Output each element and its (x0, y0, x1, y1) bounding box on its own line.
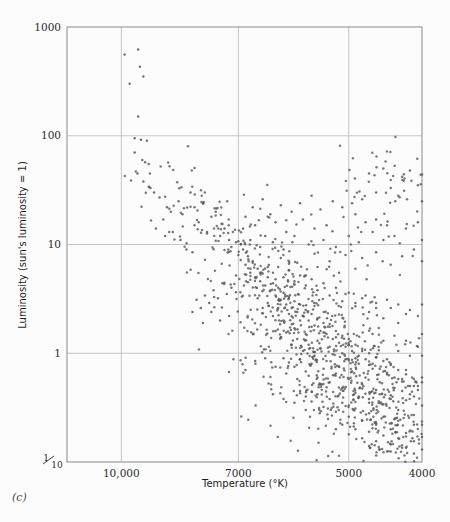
y-tick-label: 1000 (34, 21, 61, 33)
y-axis-title: Luminosity (sun's luminosity = 1) (17, 161, 28, 329)
x-tick-label: 10,000 (103, 467, 140, 479)
y-tick-label: 1 (54, 347, 61, 359)
scatter-plot: 10,000700050004000 1000100101110 Tempera… (0, 0, 450, 522)
svg-text:10: 10 (51, 460, 63, 470)
figure-caption: (c) (12, 491, 27, 504)
y-tick-label: 10 (48, 238, 61, 250)
y-tick-label: 100 (41, 129, 61, 141)
x-axis-title: Temperature (°K) (201, 478, 288, 489)
x-tick-label: 5000 (335, 467, 362, 479)
hr-diagram-figure: 10,000700050004000 1000100101110 Tempera… (0, 0, 450, 522)
x-tick-label: 4000 (409, 467, 436, 479)
